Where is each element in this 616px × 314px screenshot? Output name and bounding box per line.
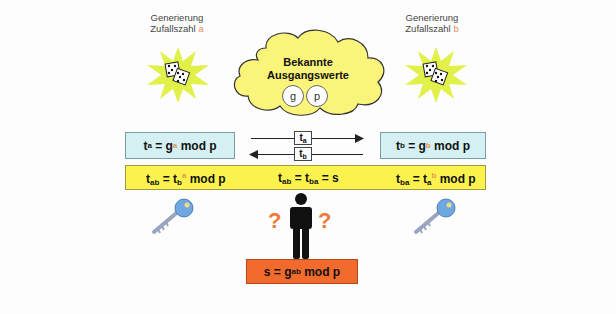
caption-a-line2-wrap: Zufallszahl a [137,23,217,34]
secret-exp: ab [292,267,301,276]
exchange-tb-sub: b [303,153,307,160]
key-icon-a [150,198,196,236]
tba-sub: ba [400,178,409,187]
secret-key-box: s = gab mod p [246,259,358,284]
caption-a-variable: a [198,23,203,34]
exchange-label-ta: ta [294,131,312,145]
shared-eq2: = s [318,171,338,185]
ta-rest: mod p [177,139,216,153]
tba-rest: mod p [436,172,475,186]
caption-b-variable: b [453,23,458,34]
arrow-left-head-icon [249,150,258,159]
cloud-title-line2: Ausgangswerte [258,69,358,82]
key-icon-b [412,198,458,236]
shared-eq1: = t [291,171,309,185]
value-p-circle: p [306,85,328,107]
value-g: g [290,90,296,102]
exchange-ta-sub: a [303,137,307,144]
value-p: p [314,90,320,102]
caption-party-b: Generierung Zufallszahl b [392,12,472,34]
cloud-title: Bekannte Ausgangswerte [258,56,358,82]
question-mark-right: ? [318,208,331,234]
shared-t2-sub: ba [309,177,318,186]
tb-eq: = g [405,139,426,153]
caption-a-line2: Zufallszahl [150,23,195,34]
question-mark-left: ? [268,208,281,234]
cloud-title-line1: Bekannte [258,56,358,69]
secret-rest: mod p [301,265,340,279]
public-value-a-box: ta = ga mod p [125,132,235,159]
caption-b-line2: Zufallszahl [405,23,450,34]
arrow-right-head-icon [355,134,364,143]
star-burst-icon-a [146,47,210,103]
tba-eq: = t [409,172,427,186]
key-formula-b: tba = tab mod p [396,171,476,187]
key-formula-a: tab = tba mod p [146,171,226,187]
shared-t1-sub: ab [282,177,291,186]
exchange-label-tb: tb [294,147,312,161]
public-value-b-box: tb = gb mod p [380,132,486,159]
tab-eq: = t [159,172,177,186]
tb-rest: mod p [431,139,470,153]
person-icon [287,193,315,259]
caption-b-line2-wrap: Zufallszahl b [392,23,472,34]
caption-a-line1: Generierung [137,12,217,23]
caption-b-line1: Generierung [392,12,472,23]
value-g-circle: g [282,85,304,107]
shared-equality: tab = tba = s [278,171,339,186]
tab-sub: ab [150,178,159,187]
star-burst-icon-b [404,47,468,103]
ta-eq: = g [152,139,173,153]
caption-party-a: Generierung Zufallszahl a [137,12,217,34]
tab-rest: mod p [186,172,225,186]
secret-lhs: s = g [264,265,292,279]
